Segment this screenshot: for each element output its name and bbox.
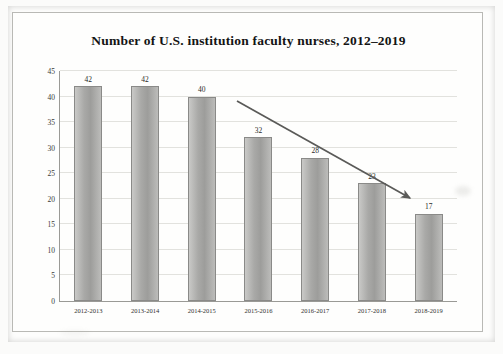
ytick-label-15: 15: [48, 220, 56, 229]
bar-value-2013-2014: 42: [141, 75, 149, 84]
ytick-label-45: 45: [48, 67, 56, 76]
bar-2016-2017[interactable]: [301, 158, 329, 301]
ytick-label-35: 35: [48, 118, 56, 127]
plot-axes: 45 40 35 30 25 20 15: [59, 71, 457, 302]
ytick-label-30: 30: [48, 143, 56, 152]
bar-value-2017-2018: 23: [368, 172, 376, 181]
bar-2018-2019[interactable]: [415, 214, 443, 301]
ytick-label-25: 25: [48, 169, 56, 178]
bar-slot-2018-2019: 17 2018-2019: [400, 71, 457, 301]
bar-2012-2013[interactable]: [74, 86, 102, 301]
xtick-label-2014-2015: 2014-2015: [188, 307, 216, 314]
xtick-label-2013-2014: 2013-2014: [131, 307, 159, 314]
bar-slot-2012-2013: 42 2012-2013: [60, 71, 117, 301]
xtick-label-2012-2013: 2012-2013: [74, 307, 102, 314]
bar-2017-2018[interactable]: [358, 183, 386, 301]
bar-slot-2017-2018: 23 2017-2018: [344, 71, 401, 301]
ytick-label-0: 0: [51, 297, 55, 306]
chart-title: Number of U.S. institution faculty nurse…: [13, 33, 484, 49]
ytick-label-10: 10: [48, 245, 56, 254]
plot-area: 45 40 35 30 25 20 15: [59, 71, 457, 302]
xtick-label-2016-2017: 2016-2017: [301, 307, 329, 314]
xtick-label-2017-2018: 2017-2018: [358, 307, 386, 314]
ytick-label-20: 20: [48, 194, 56, 203]
chart-frame: Number of U.S. institution faculty nurse…: [12, 12, 483, 332]
bar-slot-2014-2015: 40 2014-2015: [173, 71, 230, 301]
bar-value-2014-2015: 40: [198, 85, 206, 94]
bar-value-2018-2019: 17: [425, 202, 433, 211]
bar-2014-2015[interactable]: [188, 97, 216, 301]
bar-slot-2013-2014: 42 2013-2014: [117, 71, 174, 301]
bar-value-2016-2017: 28: [311, 146, 319, 155]
scan-artifact-2: [60, 330, 90, 336]
bar-2013-2014[interactable]: [131, 86, 159, 301]
bar-2015-2016[interactable]: [244, 137, 272, 301]
bar-value-2012-2013: 42: [85, 75, 93, 84]
xtick-label-2018-2019: 2018-2019: [415, 307, 443, 314]
scan-artifact: [455, 186, 471, 196]
scanned-page: Number of U.S. institution faculty nurse…: [0, 0, 503, 354]
ytick-label-40: 40: [48, 92, 56, 101]
bar-slot-2016-2017: 28 2016-2017: [287, 71, 344, 301]
xtick-label-2015-2016: 2015-2016: [244, 307, 272, 314]
bar-slot-2015-2016: 32 2015-2016: [230, 71, 287, 301]
ytick-label-5: 5: [51, 271, 55, 280]
bar-value-2015-2016: 32: [255, 126, 263, 135]
